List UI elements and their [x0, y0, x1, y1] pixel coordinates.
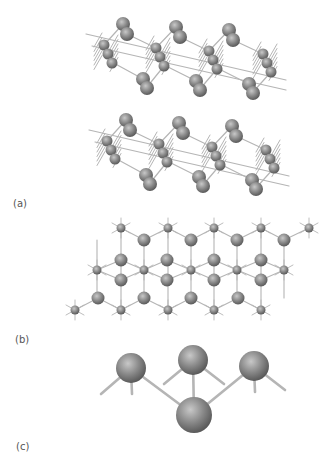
- atom: [246, 86, 260, 100]
- atom: [249, 182, 263, 196]
- atom: [93, 266, 102, 275]
- atom: [123, 123, 137, 137]
- atom: [231, 234, 244, 247]
- figure-canvas: [0, 0, 333, 456]
- crystal-structure-figure: (a) (b) (c): [0, 0, 333, 456]
- atom: [162, 157, 173, 168]
- atom: [176, 126, 190, 140]
- atom: [226, 33, 240, 47]
- atom: [110, 154, 121, 165]
- atom: [173, 30, 187, 44]
- atom: [255, 274, 268, 287]
- atom: [239, 351, 269, 381]
- atom: [117, 224, 126, 233]
- atom: [143, 177, 157, 191]
- atom: [210, 224, 219, 233]
- panel-label-a: (a): [13, 198, 27, 209]
- panel-label-b: (b): [15, 334, 29, 345]
- atom: [212, 64, 223, 75]
- panel-c-bonding-unit: [101, 345, 285, 433]
- atom: [185, 234, 198, 247]
- atom: [233, 266, 242, 275]
- atom: [140, 266, 149, 275]
- atom: [71, 306, 80, 315]
- atom: [196, 179, 210, 193]
- atom: [92, 292, 105, 305]
- atom: [255, 254, 268, 267]
- atom: [193, 83, 207, 97]
- atom: [178, 345, 208, 375]
- atom: [107, 58, 118, 69]
- atom: [161, 274, 174, 287]
- atom: [257, 224, 266, 233]
- atom: [210, 306, 219, 315]
- atom: [164, 224, 173, 233]
- panel-b-top-view: [66, 218, 318, 320]
- atom: [232, 292, 245, 305]
- atom: [116, 353, 146, 383]
- atom: [208, 274, 221, 287]
- atom: [164, 306, 173, 315]
- atom: [257, 306, 266, 315]
- atom: [159, 61, 170, 72]
- atom: [229, 129, 243, 143]
- atom: [215, 160, 226, 171]
- atom: [120, 27, 134, 41]
- atom: [208, 254, 221, 267]
- atom: [187, 266, 196, 275]
- atom: [140, 81, 154, 95]
- atom: [278, 234, 291, 247]
- panel-label-c: (c): [16, 441, 29, 452]
- atom: [269, 163, 280, 174]
- atom: [117, 306, 126, 315]
- atom: [115, 254, 128, 267]
- atom: [176, 397, 212, 433]
- atom: [161, 254, 174, 267]
- atom: [305, 224, 314, 233]
- panel-a-side-view: [86, 17, 289, 196]
- atom: [266, 67, 277, 78]
- atom: [115, 274, 128, 287]
- atom: [138, 292, 151, 305]
- atom: [138, 234, 151, 247]
- atom: [185, 292, 198, 305]
- atom: [280, 266, 289, 275]
